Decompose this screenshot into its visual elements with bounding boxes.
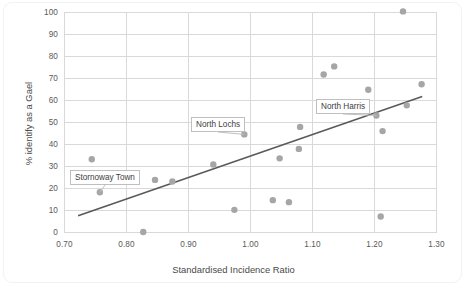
leader-line-north-lochs: [218, 132, 244, 134]
data-point: [152, 177, 158, 183]
data-point: [169, 178, 175, 184]
data-point: [89, 156, 95, 162]
data-point: [210, 161, 216, 167]
data-point: [140, 229, 146, 235]
data-point: [404, 102, 410, 108]
data-point: [231, 207, 237, 213]
x-tick-label: 0.80: [107, 240, 147, 249]
x-axis-title: Standardised Incidence Ratio: [0, 264, 467, 275]
gridlines: [65, 13, 437, 233]
x-tick-label: 0.70: [45, 240, 85, 249]
data-point: [365, 87, 371, 93]
y-axis-title: % identify as a Gael: [23, 44, 34, 204]
data-point: [378, 213, 384, 219]
data-point: [286, 199, 292, 205]
y-tick-label: 10: [28, 206, 58, 215]
callout-stornoway-town: Stornoway Town: [70, 170, 140, 185]
data-point: [331, 63, 337, 69]
data-point: [418, 81, 424, 87]
data-point: [400, 8, 406, 14]
data-point: [296, 146, 302, 152]
y-tick-label: 90: [28, 30, 58, 39]
callout-north-harris: North Harris: [316, 99, 370, 114]
x-tick-label: 0.90: [169, 240, 209, 249]
x-tick-label: 1.20: [355, 240, 395, 249]
data-point: [320, 71, 326, 77]
x-tick-label: 1.30: [417, 240, 457, 249]
y-tick-label: 100: [28, 8, 58, 17]
data-point: [297, 124, 303, 130]
data-point: [379, 128, 385, 134]
y-tick-label: 0: [28, 228, 58, 237]
data-point: [270, 197, 276, 203]
x-tick-label: 1.10: [293, 240, 333, 249]
callout-north-lochs: North Lochs: [191, 117, 245, 132]
scatter-chart: 0102030405060708090100 0.700.800.901.001…: [0, 0, 467, 287]
data-point: [276, 155, 282, 161]
x-tick-label: 1.00: [231, 240, 271, 249]
